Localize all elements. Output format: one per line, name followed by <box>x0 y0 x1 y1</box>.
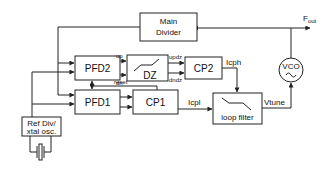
loop-filter-block: loop filter <box>213 93 262 124</box>
dndz-signal-label: dndz <box>169 77 182 83</box>
dz-block: DZ <box>127 55 168 81</box>
main-divider-label-2: Divider <box>156 28 181 37</box>
pfd1-label: PFD1 <box>85 97 111 108</box>
pfd1-block: PFD1 <box>75 90 120 114</box>
ref-label-2: xtal osc. <box>27 127 56 136</box>
ref-divider-oscillator-block: Ref Div/ xtal osc. <box>22 117 61 136</box>
cp1-block: CP1 <box>133 90 178 114</box>
cp1-label: CP1 <box>146 97 166 108</box>
cp2-block: CP2 <box>185 57 222 79</box>
pfd2-label: PFD2 <box>85 63 111 74</box>
crystal-icon <box>30 136 51 160</box>
pll-block-diagram: Main Divider Fout PFD2 up dn DZ updz dnd… <box>0 0 327 172</box>
vco-block: VCO <box>279 58 303 82</box>
cp2-label: CP2 <box>194 63 214 74</box>
reset-signal-label: reset <box>114 79 128 85</box>
vtune-signal-label: Vtune <box>264 98 285 107</box>
pfd2-block: PFD2 <box>75 56 120 80</box>
icpl-signal-label: Icpl <box>188 98 201 107</box>
updz-signal-label: updz <box>169 54 182 60</box>
dz-label: DZ <box>143 70 156 81</box>
loop-filter-label: loop filter <box>221 113 254 122</box>
main-divider-block: Main Divider <box>140 13 197 41</box>
icph-signal-label: Icph <box>226 58 241 67</box>
fout-label: Fout <box>303 14 317 24</box>
up-signal-label: up <box>116 53 123 59</box>
main-divider-label-1: Main <box>160 17 177 26</box>
vco-label: VCO <box>282 62 299 71</box>
